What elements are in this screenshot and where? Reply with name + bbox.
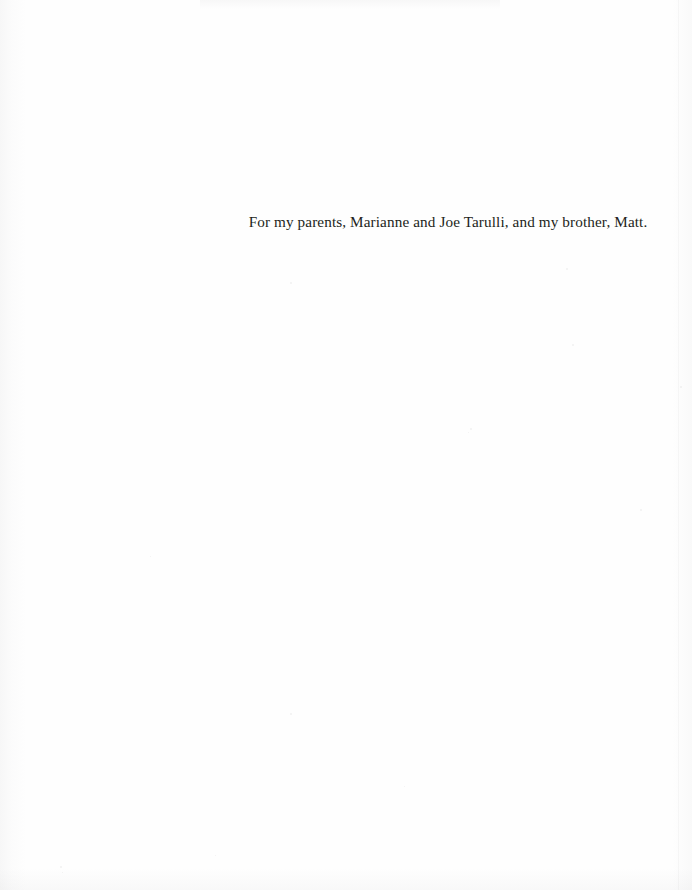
sheet-edge-line — [678, 0, 679, 890]
page-edge-shadow-bottom — [0, 868, 692, 890]
scan-speck — [680, 386, 682, 388]
scan-speck — [572, 344, 574, 346]
scan-speck — [150, 556, 151, 557]
facing-page-bleedthrough — [200, 0, 500, 9]
scan-speck — [468, 432, 469, 433]
dedication-text: For my parents, Marianne and Joe Tarulli… — [249, 212, 648, 232]
dedication-block: For my parents, Marianne and Joe Tarulli… — [0, 212, 692, 232]
scan-speck — [290, 282, 292, 284]
scan-speck — [640, 509, 642, 511]
scan-speck — [215, 855, 216, 856]
scan-speck — [404, 786, 405, 787]
scan-speck — [290, 713, 292, 715]
page-edge-shadow-left — [0, 0, 26, 890]
scan-speck — [60, 866, 62, 868]
scan-speck — [62, 872, 63, 873]
page-edge-shadow-right — [672, 0, 692, 890]
scan-speck — [470, 428, 472, 430]
dedication-page: For my parents, Marianne and Joe Tarulli… — [0, 0, 692, 890]
scan-speck — [566, 268, 568, 270]
